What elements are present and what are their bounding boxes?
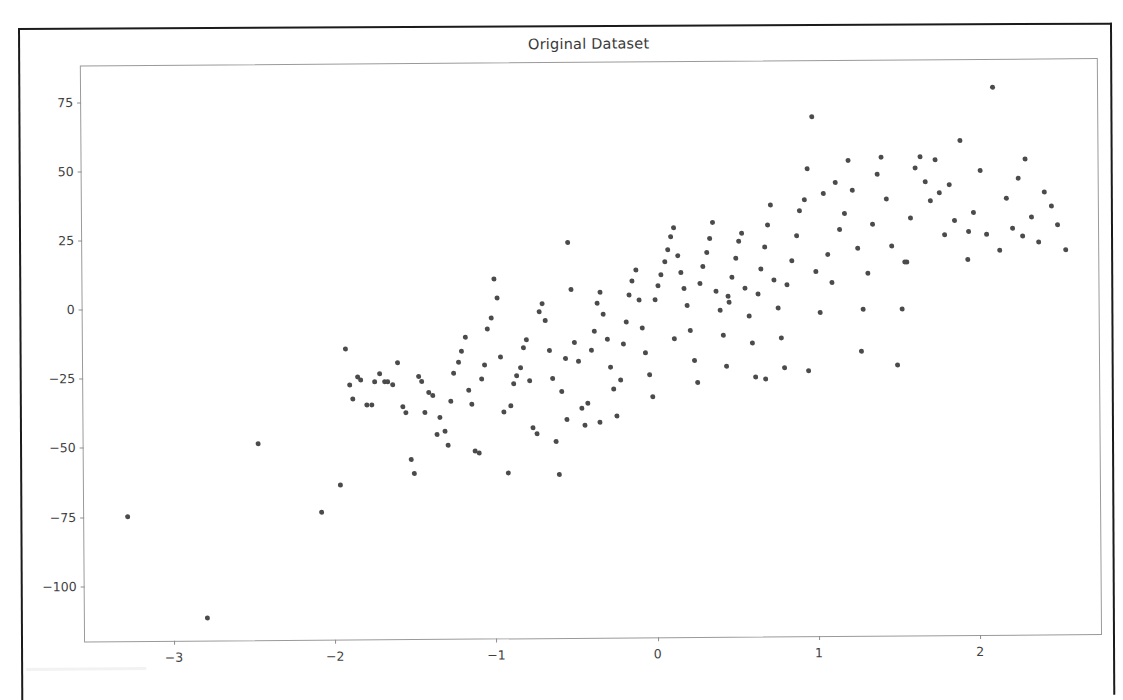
scatter-point: [662, 259, 667, 264]
scatter-point: [419, 379, 424, 384]
scatter-point: [665, 248, 670, 253]
scatter-point: [772, 277, 777, 282]
scatter-point: [608, 364, 613, 369]
scatter-point: [1003, 195, 1008, 200]
scatter-point: [595, 301, 600, 306]
scatter-point: [756, 291, 761, 296]
scatter-point: [505, 470, 510, 475]
scatter-point: [546, 348, 551, 353]
scatter-point: [550, 376, 555, 381]
scatter-point: [958, 138, 963, 143]
scatter-point: [498, 354, 503, 359]
scatter-point: [446, 443, 451, 448]
scatter-point: [710, 220, 715, 225]
scatter-point: [476, 451, 481, 456]
scatter-point: [678, 270, 683, 275]
scatter-point: [518, 365, 523, 370]
scatter-point: [879, 155, 884, 160]
scatter-point: [830, 280, 835, 285]
scatter-point: [942, 232, 947, 237]
scatter-point: [768, 203, 773, 208]
scatter-point: [937, 190, 942, 195]
x-tick-label: −3: [165, 650, 184, 665]
scatter-point: [794, 233, 799, 238]
scatter-point: [514, 373, 519, 378]
scatter-point: [695, 380, 700, 385]
scan-artifact: [26, 667, 146, 671]
scatter-point: [889, 243, 894, 248]
scatter-point: [563, 356, 568, 361]
scatter-point: [967, 229, 972, 234]
scatter-point: [560, 389, 565, 394]
scatter-point: [586, 400, 591, 405]
scatter-point: [932, 157, 937, 162]
scatter-point: [479, 376, 484, 381]
scatter-point: [469, 401, 474, 406]
scatter-point: [717, 308, 722, 313]
scatter-point: [611, 386, 616, 391]
scatter-point: [343, 347, 348, 352]
scatter-point: [1042, 190, 1047, 195]
scatter-point: [627, 292, 632, 297]
y-tick-label: −75: [50, 510, 76, 525]
x-tick-label: 2: [976, 644, 984, 659]
scatter-point: [947, 182, 952, 187]
y-tick-label: −100: [42, 579, 76, 594]
scatter-point: [572, 340, 577, 345]
scatter-point: [576, 359, 581, 364]
scatter-point: [579, 406, 584, 411]
scatter-point: [797, 208, 802, 213]
scatter-point: [821, 191, 826, 196]
scatter-point: [598, 290, 603, 295]
scatter-point: [524, 337, 529, 342]
scatter-point: [437, 415, 442, 420]
scatter-point: [531, 426, 536, 431]
scatter-point: [624, 320, 629, 325]
scatter-point: [488, 315, 493, 320]
scatter-point: [1055, 223, 1060, 228]
scatter-point: [1016, 176, 1021, 181]
scatter-point: [373, 380, 378, 385]
scatter-point: [466, 387, 471, 392]
scatter-point: [782, 366, 787, 371]
scatter-point: [832, 180, 837, 185]
scatter-point: [659, 273, 664, 278]
scatter-point: [908, 215, 913, 220]
y-tick-mark: [79, 310, 83, 311]
scatter-point: [656, 284, 661, 289]
scatter-point: [895, 362, 900, 367]
scatter-point: [451, 371, 456, 376]
scatter-point: [621, 342, 626, 347]
scatter-point: [725, 294, 730, 299]
scatter-point: [1036, 239, 1041, 244]
x-tick-mark: [496, 638, 497, 642]
scatter-point: [899, 307, 904, 312]
scatter-point: [870, 221, 875, 226]
scatter-point: [319, 510, 324, 515]
scatter-point: [588, 348, 593, 353]
y-tick-mark: [78, 241, 82, 242]
x-tick-label: −2: [326, 649, 345, 664]
scatter-point: [698, 281, 703, 286]
scatter-point: [350, 396, 355, 401]
scatter-point: [565, 417, 570, 422]
scatter-point: [369, 402, 374, 407]
scatter-point: [442, 429, 447, 434]
scatter-point: [984, 232, 989, 237]
scatter-point: [814, 269, 819, 274]
scatter-point: [928, 199, 933, 204]
scatter-point: [647, 372, 652, 377]
scatter-point: [416, 374, 421, 379]
scatter-point: [721, 333, 726, 338]
scatter-point: [809, 114, 814, 119]
scatter-point: [805, 166, 810, 171]
scatter-point: [601, 312, 606, 317]
scatter-point: [701, 264, 706, 269]
scatter-point: [255, 441, 260, 446]
scatter-point: [739, 231, 744, 236]
scatter-point: [918, 155, 923, 160]
scatter-point: [650, 394, 655, 399]
scatter-point: [763, 377, 768, 382]
scatter-point: [400, 404, 405, 409]
scatter-point: [746, 313, 751, 318]
